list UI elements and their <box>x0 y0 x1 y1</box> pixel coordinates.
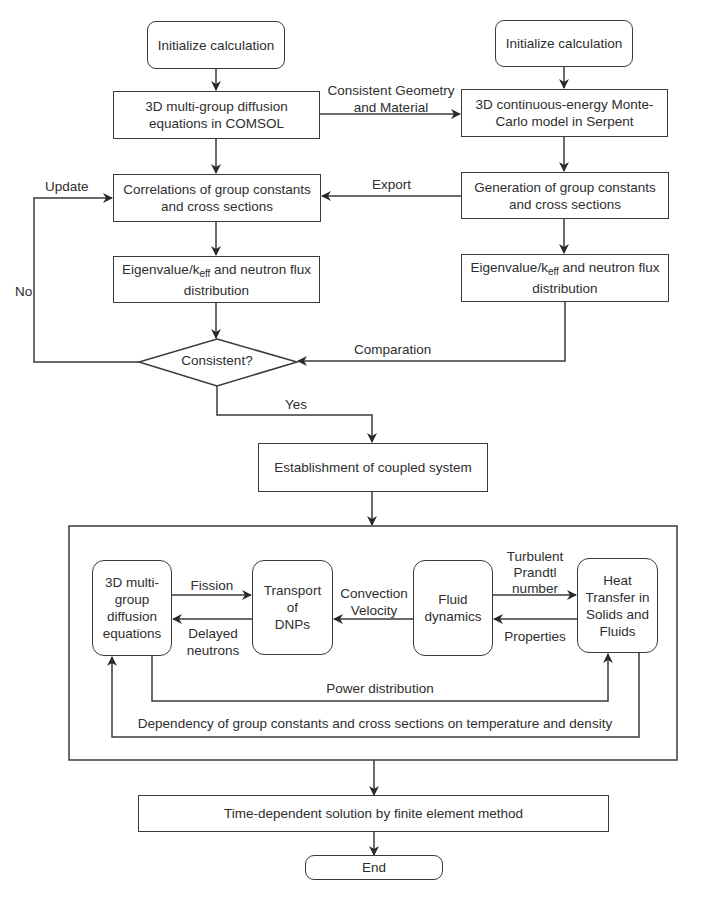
time-dependent-solution-box: Time-dependent solution by finite elemen… <box>138 795 609 832</box>
node-label: Solids and <box>586 606 649 623</box>
initialize-calculation-right: Initialize calculation <box>495 20 633 67</box>
node-label: and cross sections <box>161 198 273 215</box>
node-label: Correlations of group constants <box>123 181 311 198</box>
label-line: number <box>497 581 573 597</box>
montecarlo-serpent-box: 3D continuous-energy Monte- Carlo model … <box>461 89 668 137</box>
label-line: Turbulent <box>497 549 573 565</box>
label-subscript: eff <box>548 266 559 277</box>
label-dependency: Dependency of group constants and cross … <box>120 715 630 732</box>
node-label: and cross sections <box>509 196 621 213</box>
label-part: Eigenvalue/k <box>122 262 199 277</box>
label-part: and neutron flux <box>210 262 311 277</box>
label-line: Consistent Geometry <box>322 82 460 99</box>
diffusion-comsol-box: 3D multi-group diffusion equations in CO… <box>113 91 320 139</box>
node-label: distribution <box>184 282 249 299</box>
coupled-system-box: Establishment of coupled system <box>258 443 488 492</box>
node-label: Carlo model in Serpent <box>495 113 633 130</box>
node-label: Generation of group constants <box>474 179 656 196</box>
label-update: Update <box>45 178 89 195</box>
eigenvalue-left-box: Eigenvalue/keff and neutron flux distrib… <box>113 256 320 303</box>
consistent-decision: Consistent? <box>167 353 267 368</box>
node-label: Fluid <box>438 591 467 608</box>
node-label: End <box>362 859 386 876</box>
node-label: Eigenvalue/keff and neutron flux <box>471 259 660 280</box>
node-label: diffusion <box>107 608 157 625</box>
label-export: Export <box>372 176 411 193</box>
label-yes: Yes <box>285 396 307 413</box>
label-delayed-neutrons: Delayedneutrons <box>183 625 243 659</box>
node-label: group <box>115 591 150 608</box>
eigenvalue-right-box: Eigenvalue/keff and neutron flux distrib… <box>461 254 669 302</box>
label-geometry: Consistent Geometryand Material <box>322 82 460 116</box>
label-part: Eigenvalue/k <box>471 260 548 275</box>
heat-transfer-box: Heat Transfer in Solids and Fluids <box>577 558 658 653</box>
node-label: DNPs <box>275 616 310 633</box>
node-label: Transport of <box>257 582 328 616</box>
label-convection-velocity: ConvectionVelocity <box>335 585 413 619</box>
node-label: equations <box>103 625 162 642</box>
label-line: Convection <box>335 585 413 602</box>
node-label: Transfer in <box>585 589 649 606</box>
node-label: 3D multi- <box>105 574 159 591</box>
label-properties: Properties <box>497 628 573 645</box>
label-line: neutrons <box>183 642 243 659</box>
correlations-box: Correlations of group constants and cros… <box>113 174 321 222</box>
label-line: Delayed <box>183 625 243 642</box>
node-label: Initialize calculation <box>506 35 622 52</box>
node-label: 3D continuous-energy Monte- <box>476 96 654 113</box>
node-label: Establishment of coupled system <box>274 459 471 476</box>
label-line: Prandtl <box>497 565 573 581</box>
node-label: distribution <box>532 280 597 297</box>
node-label: Initialize calculation <box>158 37 274 54</box>
fluid-dynamics-box: Fluid dynamics <box>413 560 493 656</box>
label-line: Velocity <box>335 602 413 619</box>
generation-box: Generation of group constants and cross … <box>461 172 669 219</box>
node-label: Eigenvalue/keff and neutron flux <box>122 261 311 282</box>
label-power-distribution: Power distribution <box>300 680 460 697</box>
label-comparation: Comparation <box>354 341 431 358</box>
node-label: equations in COMSOL <box>149 115 284 132</box>
node-label: Time-dependent solution by finite elemen… <box>224 805 523 822</box>
label-part: and neutron flux <box>559 260 660 275</box>
node-label: 3D multi-group diffusion <box>145 98 287 115</box>
label-no: No <box>15 283 32 300</box>
end-box: End <box>305 855 443 880</box>
transport-dnps-box: Transport of DNPs <box>252 560 333 655</box>
node-label: dynamics <box>424 608 481 625</box>
label-prandtl: TurbulentPrandtlnumber <box>497 549 573 597</box>
node-label: Fluids <box>599 623 635 640</box>
initialize-calculation-left: Initialize calculation <box>147 21 285 69</box>
label-line: and Material <box>322 99 460 116</box>
label-subscript: eff <box>199 268 210 279</box>
inner-diffusion-box: 3D multi- group diffusion equations <box>92 560 172 656</box>
node-label: Heat <box>603 572 632 589</box>
label-fission: Fission <box>190 577 234 594</box>
